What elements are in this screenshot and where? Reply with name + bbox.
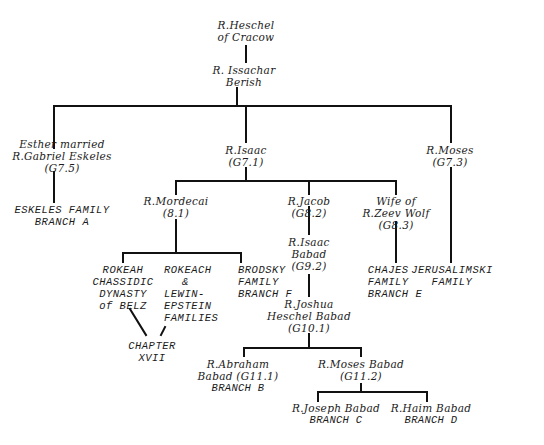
node-line: FAMILIES: [164, 312, 218, 324]
node-line: R.Jacob: [288, 195, 331, 207]
node-line: FAMILY: [238, 276, 292, 288]
node-line: ESKELES FAMILY: [14, 204, 109, 216]
node-line: R. Issachar: [213, 64, 276, 76]
node-line: BRODSKY: [238, 264, 292, 276]
node-abraham-babad: R.Abraham Babad (G11.1) BRANCH B: [198, 358, 279, 394]
node-line: FAMILY: [411, 276, 493, 288]
node-line: Wife of: [362, 195, 429, 207]
node-line: XVII: [128, 352, 176, 364]
node-chapter-xvii: CHAPTER XVII: [128, 340, 176, 364]
node-rokeach-lewin-epstein: ROKEACH & LEWIN- EPSTEIN FAMILIES: [164, 264, 218, 324]
node-line: (G7.1): [225, 156, 266, 168]
node-line: BRANCH E: [368, 288, 422, 300]
node-haim-babad: R.Haim Babad BRANCH D: [391, 402, 472, 426]
node-joshua-heschel-babad: R.Joshua Heschel Babad (G10.1): [267, 298, 351, 334]
node-rokeah-belz: ROKEAH CHASSIDIC DYNASTY of BELZ: [92, 264, 153, 312]
node-line: R.Zeev Wolf: [362, 207, 429, 219]
node-line: R.Joshua: [267, 298, 351, 310]
node-line: &: [164, 276, 218, 288]
node-line: JERUSALIMSKI: [411, 264, 493, 276]
node-line: (G8.2): [288, 207, 331, 219]
node-line: CHASSIDIC: [92, 276, 153, 288]
node-zeev-wolf: Wife of R.Zeev Wolf (G8.3): [362, 195, 429, 231]
node-line: (G7.3): [426, 156, 473, 168]
node-line: of Cracow: [218, 31, 275, 43]
node-line: Babad: [288, 248, 329, 260]
node-line: (G10.1): [267, 322, 351, 334]
node-joseph-babad: R.Joseph Babad BRANCH C: [292, 402, 380, 426]
node-line: R.Isaac: [288, 236, 329, 248]
node-line: EPSTEIN: [164, 300, 218, 312]
node-line: R.Isaac: [225, 144, 266, 156]
node-line: R.Moses Babad: [318, 358, 404, 370]
node-line: R.Joseph Babad: [292, 402, 380, 414]
node-isaac-g7-1: R.Isaac (G7.1): [225, 144, 266, 168]
node-line: Berish: [213, 76, 276, 88]
node-line: LEWIN-: [164, 288, 218, 300]
node-brodsky-branch-f: BRODSKY FAMILY BRANCH F: [238, 264, 292, 300]
node-line: (G7.5): [12, 162, 112, 174]
node-line: BRANCH D: [391, 414, 472, 426]
node-jacob: R.Jacob (G8.2): [288, 195, 331, 219]
node-line: R.Abraham: [198, 358, 279, 370]
node-line: R.Moses: [426, 144, 473, 156]
node-line: Esther married: [12, 138, 112, 150]
node-jerusalimski-family: JERUSALIMSKI FAMILY: [411, 264, 493, 288]
node-line: (G9.2): [288, 260, 329, 272]
node-line: CHAPTER: [128, 340, 176, 352]
node-line: BRANCH B: [198, 382, 279, 394]
node-line: R.Gabriel Eskeles: [12, 150, 112, 162]
node-heschel-of-cracow: R.Heschel of Cracow: [218, 19, 275, 43]
node-isaac-babad: R.Isaac Babad (G9.2): [288, 236, 329, 272]
node-moses-babad: R.Moses Babad (G11.2): [318, 358, 404, 382]
node-moses-g7-3: R.Moses (G7.3): [426, 144, 473, 168]
node-line: (G8.3): [362, 219, 429, 231]
node-line: ROKEACH: [164, 264, 218, 276]
node-mordecai: R.Mordecai (8.1): [144, 195, 209, 219]
node-line: DYNASTY: [92, 288, 153, 300]
node-line: Babad (G11.1): [198, 370, 279, 382]
node-line: Heschel Babad: [267, 310, 351, 322]
node-eskeles-branch-a: ESKELES FAMILY BRANCH A: [14, 204, 109, 228]
node-line: R.Heschel: [218, 19, 275, 31]
node-line: ROKEAH: [92, 264, 153, 276]
node-line: BRANCH C: [292, 414, 380, 426]
node-line: R.Haim Babad: [391, 402, 472, 414]
node-line: BRANCH A: [14, 216, 109, 228]
node-line: of BELZ: [92, 300, 153, 312]
node-line: (8.1): [144, 207, 209, 219]
node-issachar-berish: R. Issachar Berish: [213, 64, 276, 88]
node-esther-eskeles: Esther married R.Gabriel Eskeles (G7.5): [12, 138, 112, 174]
node-line: R.Mordecai: [144, 195, 209, 207]
node-line: (G11.2): [318, 370, 404, 382]
